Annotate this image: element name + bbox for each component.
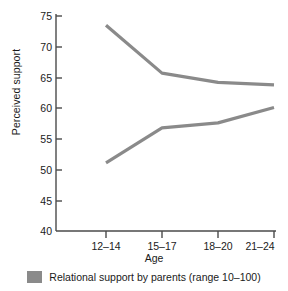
y-axis-ticks: [56, 16, 62, 201]
chart-container: Perceived support 75 70 65 60 55 50 45 4…: [0, 0, 288, 291]
legend-label: Relational support by parents (range 10–…: [49, 271, 260, 283]
plot-area: [0, 0, 288, 291]
legend-swatch-icon: [27, 271, 42, 283]
series-line-upper: [106, 25, 274, 85]
series-line-lower: [106, 108, 274, 163]
x-axis-ticks: [106, 231, 274, 238]
chart-legend: Relational support by parents (range 10–…: [0, 271, 288, 283]
